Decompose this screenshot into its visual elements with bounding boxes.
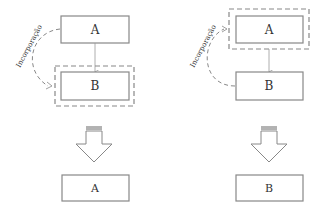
- right-box-b-label: B: [265, 79, 274, 93]
- right-result-label: B: [265, 182, 273, 195]
- right-curve-arrowhead: [222, 26, 227, 32]
- left-panel: A B Incorporação A: [15, 16, 134, 201]
- right-box-a-label: A: [264, 23, 274, 37]
- left-curve-arrowhead: [46, 82, 52, 89]
- left-result-label: A: [90, 182, 100, 195]
- right-panel: A B Incorporação B: [189, 9, 309, 201]
- left-box-b-label: B: [91, 79, 100, 93]
- left-edge-label: Incorporação: [15, 23, 44, 69]
- left-box-a-label: A: [90, 23, 100, 37]
- left-down-arrow-icon: [76, 127, 112, 162]
- right-down-arrow-icon: [251, 127, 287, 162]
- right-edge-label: Incorporação: [189, 23, 218, 69]
- diagram-canvas: A B Incorporação A A B Incorporação: [0, 0, 329, 219]
